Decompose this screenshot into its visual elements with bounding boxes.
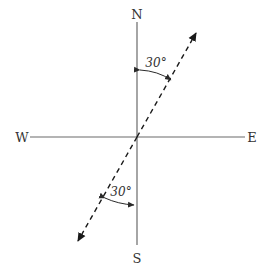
- angle-arc-north: [140, 70, 171, 80]
- angle-label-north: 30°: [145, 56, 166, 70]
- angle-label-south: 30°: [110, 185, 131, 199]
- bearing-arrow-northeast: [137, 33, 196, 137]
- south-label: S: [133, 251, 142, 266]
- angle-arc-south: [105, 198, 134, 205]
- compass-diagram: N S W E 30° 30°: [0, 0, 268, 274]
- east-label: E: [247, 130, 257, 145]
- west-label: W: [15, 130, 29, 145]
- north-label: N: [131, 7, 142, 22]
